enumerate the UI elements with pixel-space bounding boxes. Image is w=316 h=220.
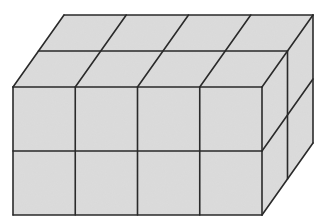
cube-prism-diagram xyxy=(0,0,316,220)
figure-canvas xyxy=(0,0,316,220)
prism-faces xyxy=(13,15,313,215)
